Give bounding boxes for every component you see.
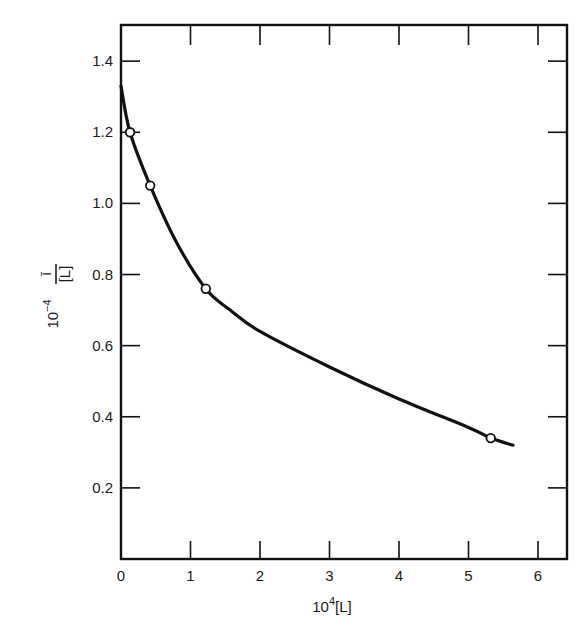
- plot-border: [121, 25, 567, 559]
- data-point-marker: [146, 181, 155, 190]
- data-point-marker: [486, 434, 495, 443]
- y-tick-label: 0.8: [92, 266, 113, 283]
- x-tick-label: 6: [534, 567, 542, 584]
- x-tick-label: 3: [325, 567, 333, 584]
- svg-text:10−4: 10−4: [41, 299, 61, 328]
- data-points: [126, 128, 495, 442]
- svg-text:ī: ī: [37, 271, 54, 276]
- svg-text:[L]: [L]: [56, 266, 73, 283]
- x-tick-labels: 0123456: [117, 567, 542, 584]
- data-point-marker: [126, 128, 135, 137]
- x-tick-label: 0: [117, 567, 125, 584]
- x-tick-label: 5: [464, 567, 472, 584]
- y-tick-label: 1.4: [92, 52, 113, 69]
- y-tick-label: 1.2: [92, 123, 113, 140]
- y-tick-label: 0.4: [92, 408, 113, 425]
- y-tick-label: 0.2: [92, 479, 113, 496]
- plot-frame: [121, 25, 567, 559]
- y-axis-label: 10−4 ī [L]: [37, 264, 73, 329]
- x-tick-label: 4: [395, 567, 403, 584]
- x-tick-label: 2: [256, 567, 264, 584]
- chart: 0123456 0.20.40.60.81.01.21.4 104[L] 10−…: [0, 0, 588, 636]
- x-axis-label: 104[L]: [312, 595, 352, 615]
- axis-ticks: [121, 25, 567, 559]
- y-tick-labels: 0.20.40.60.81.01.21.4: [92, 52, 113, 496]
- data-point-marker: [201, 284, 210, 293]
- x-tick-label: 1: [186, 567, 194, 584]
- y-tick-label: 0.6: [92, 337, 113, 354]
- fitted-curve: [121, 86, 513, 445]
- y-tick-label: 1.0: [92, 194, 113, 211]
